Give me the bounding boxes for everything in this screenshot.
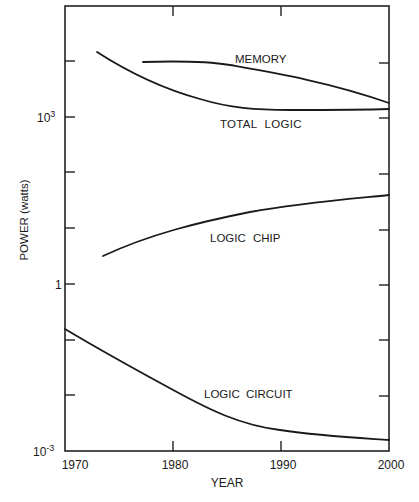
logic-chip-curve [103,195,389,256]
y-tick-label-0001: 10-3 [33,443,54,459]
y-tick-base: 10 [37,111,51,125]
plot-frame [65,6,389,451]
total-logic-label: TOTAL LOGIC [220,118,302,130]
power-vs-year-chart: MEMORY TOTAL LOGIC LOGIC CHIP LOGIC CIRC… [0,0,419,502]
y-tick-exp: -3 [46,443,54,453]
x-tick-label-1980: 1980 [162,458,189,472]
y-tick-label-1: 1 [55,278,62,292]
y-tick-label-1000: 103 [37,109,55,125]
y-ticks-left [65,61,75,395]
x-axis-title: YEAR [211,476,244,490]
logic-circuit-curve [65,329,389,440]
x-ticks [173,6,281,451]
y-ticks-right [379,63,389,396]
x-tick-label-2000: 2000 [378,458,405,472]
logic-chip-label: LOGIC CHIP [210,232,281,244]
memory-curve [143,61,389,103]
logic-circuit-label: LOGIC CIRCUIT [204,388,293,400]
y-tick-exp: 3 [50,109,55,119]
y-tick-base: 10 [33,445,47,459]
memory-label: MEMORY [235,53,287,65]
x-tick-label-1970: 1970 [62,458,89,472]
y-axis-title: POWER (watts) [18,179,30,260]
x-tick-label-1990: 1990 [270,458,297,472]
